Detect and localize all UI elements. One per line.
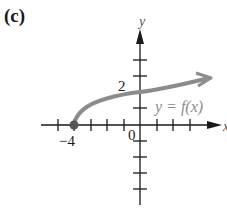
y-axis <box>133 29 147 205</box>
y-tick-label-2: 2 <box>118 78 126 94</box>
start-point-dot <box>70 121 79 130</box>
x-axis-arrow-icon <box>207 121 222 129</box>
graph: y x −4 0 2 y = f(x) <box>0 0 227 216</box>
curve-label: y = f(x) <box>153 98 203 116</box>
y-axis-label: y <box>137 14 146 29</box>
x-axis-label: x <box>222 119 227 134</box>
origin-label: 0 <box>128 127 136 143</box>
x-tick-label-neg4: −4 <box>59 133 75 149</box>
y-axis-arrow-icon <box>136 29 144 44</box>
